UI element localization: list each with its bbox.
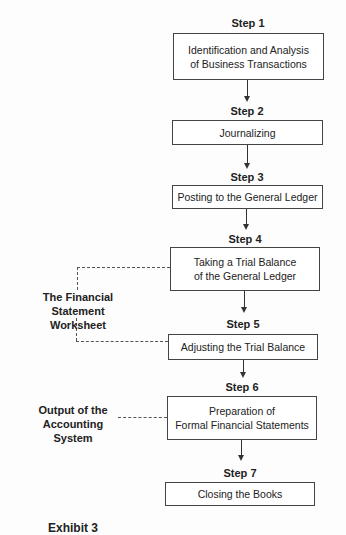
arrow-down-icon — [244, 163, 250, 169]
step-3-box: Posting to the General Ledger — [172, 185, 323, 209]
arrow-down-icon — [244, 96, 250, 102]
step-1-label: Step 1 — [173, 17, 323, 29]
step-5-box: Adjusting the Trial Balance — [168, 334, 318, 360]
dashed-connector — [76, 341, 168, 342]
step-4-box: Taking a Trial Balance of the General Le… — [170, 247, 320, 291]
step-3-label: Step 3 — [172, 171, 322, 183]
step-7-box: Closing the Books — [165, 482, 315, 506]
arrow-down-icon — [238, 455, 244, 461]
step-2-label: Step 2 — [172, 105, 322, 117]
exhibit-caption: Exhibit 3 — [48, 521, 98, 535]
step-7-label: Step 7 — [165, 467, 315, 479]
arrow-down-icon — [240, 372, 246, 378]
dashed-connector — [77, 267, 170, 268]
dashed-connector — [118, 417, 167, 418]
step-6-label: Step 6 — [167, 381, 317, 393]
connector — [247, 145, 248, 165]
output-label: Output of the Accounting System — [24, 403, 122, 445]
step-4-label: Step 4 — [170, 233, 320, 245]
dashed-connector — [77, 267, 78, 290]
step-1-box: Identification and Analysis of Business … — [173, 33, 324, 80]
step-6-box: Preparation of Formal Financial Statemen… — [167, 396, 317, 440]
arrow-down-icon — [243, 224, 249, 230]
arrow-down-icon — [241, 307, 247, 313]
step-2-box: Journalizing — [172, 120, 323, 145]
step-5-label: Step 5 — [168, 318, 318, 330]
worksheet-label: The Financial Statement Worksheet — [22, 290, 134, 332]
